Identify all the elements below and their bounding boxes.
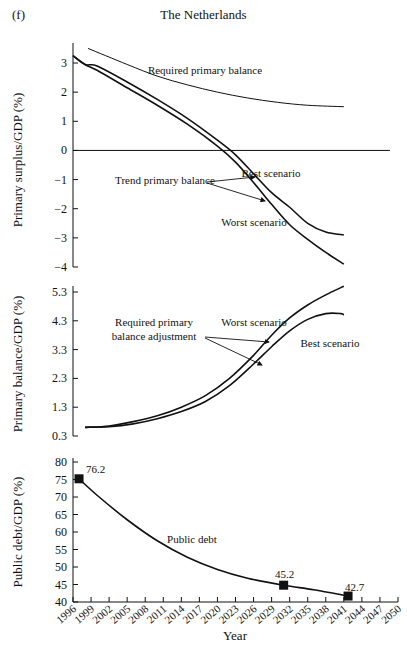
marker-label-1: 76.2	[86, 463, 105, 475]
chart-canvas: 3210−1−2−3−45.34.33.32.31.30.38075706560…	[0, 0, 407, 649]
annotation-public-debt: Public debt	[167, 533, 217, 545]
series-line	[73, 56, 344, 235]
annotation-best-scenario-mid: Best scenario	[301, 337, 360, 349]
x-axis-label: Year	[0, 628, 407, 644]
y-tick-label: 75	[55, 473, 67, 487]
y-tick-label: 1	[61, 114, 67, 128]
marker-label-2: 45.2	[275, 568, 294, 580]
series-line	[85, 286, 344, 427]
y-tick-label: 0.3	[52, 429, 67, 443]
y-tick-label: −3	[54, 231, 67, 245]
y-axis-label-public-debt: Public debt/GDP (%)	[10, 462, 26, 602]
series-line	[88, 48, 344, 106]
y-axis-label-primary-balance: Primary balance/GDP (%)	[10, 284, 26, 444]
y-tick-label: 3	[61, 56, 67, 70]
y-tick-label: 60	[55, 525, 67, 539]
series-line	[73, 56, 344, 264]
y-tick-label: 1.3	[52, 400, 67, 414]
y-tick-label: 55	[55, 543, 67, 557]
y-tick-label: −4	[54, 260, 67, 274]
y-tick-label: 3.3	[52, 343, 67, 357]
y-tick-label: 4.3	[52, 314, 67, 328]
y-tick-label: 70	[55, 490, 67, 504]
y-tick-label: −2	[54, 202, 67, 216]
annotation-trend-primary-balance: Trend primary balance	[115, 174, 215, 186]
annotation-required-adjustment-line2: balance adjustment	[112, 330, 197, 342]
y-tick-label: −1	[54, 173, 67, 187]
annotations: Required primary balance Trend primary b…	[86, 64, 365, 593]
data-marker	[279, 581, 288, 590]
y-tick-label: 80	[55, 455, 67, 469]
marker-label-3: 42.7	[345, 581, 365, 593]
y-tick-label: 65	[55, 508, 67, 522]
y-tick-label: 2.3	[52, 371, 67, 385]
y-tick-label: 45	[55, 578, 67, 592]
annotation-arrows	[205, 177, 269, 365]
annotation-worst-scenario-top: Worst scenario	[221, 216, 287, 228]
y-tick-label: 2	[61, 85, 67, 99]
y-axis-label-primary-surplus: Primary surplus/GDP (%)	[10, 80, 26, 240]
annotation-required-primary-balance: Required primary balance	[148, 64, 262, 76]
y-tick-label: 0	[61, 143, 67, 157]
x-tick-label: 2050	[379, 602, 404, 626]
data-marker	[75, 474, 84, 483]
y-tick-label: 5.3	[52, 285, 67, 299]
annotation-worst-scenario-mid: Worst scenario	[221, 316, 287, 328]
y-tick-label: 50	[55, 560, 67, 574]
annotation-required-adjustment-line1: Required primary	[115, 316, 193, 328]
